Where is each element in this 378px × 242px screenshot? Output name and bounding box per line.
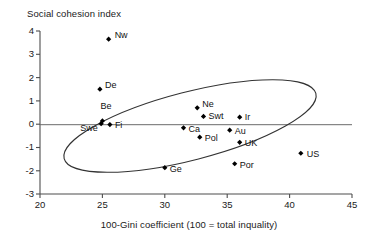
- data-point-marker: [97, 87, 102, 92]
- data-point-label: De: [105, 80, 117, 90]
- data-point-label: Au: [235, 126, 246, 136]
- data-point-label: Ca: [189, 124, 201, 134]
- x-tick-label: 30: [153, 199, 177, 210]
- y-tick-label: 4: [20, 25, 34, 36]
- scatter-plot-canvas: [0, 0, 378, 242]
- data-point-label: Ge: [170, 164, 182, 174]
- data-point-label: Swe: [80, 123, 98, 133]
- chart-figure: Social cohesion index 100-Gini coefficie…: [0, 0, 378, 242]
- data-point-marker: [232, 161, 237, 166]
- y-tick-label: 0: [20, 118, 34, 129]
- data-point-marker: [197, 135, 202, 140]
- x-tick-label: 40: [278, 199, 302, 210]
- y-tick-label: -1: [20, 141, 34, 152]
- data-point-label: Swt: [208, 111, 223, 121]
- x-tick-label: 45: [340, 199, 364, 210]
- data-point-marker: [237, 115, 242, 120]
- data-markers-layer: [97, 37, 303, 171]
- data-point-marker: [107, 122, 112, 127]
- data-point-label: US: [307, 149, 320, 159]
- data-point-marker: [106, 37, 111, 42]
- data-point-marker: [298, 151, 303, 156]
- data-point-label: Ne: [202, 99, 214, 109]
- data-point-marker: [181, 125, 186, 130]
- y-tick-label: 2: [20, 72, 34, 83]
- x-tick-label: 20: [28, 199, 52, 210]
- data-point-label: Pol: [205, 133, 218, 143]
- data-point-marker: [201, 114, 206, 119]
- data-point-label: Fi: [115, 120, 123, 130]
- y-tick-label: 3: [20, 48, 34, 59]
- y-tick-marks: [36, 31, 40, 194]
- data-point-label: Be: [100, 101, 111, 111]
- y-tick-label: -3: [20, 188, 34, 199]
- x-tick-label: 25: [90, 199, 114, 210]
- x-axis-title: 100-Gini coefficient (100 = total inqual…: [0, 219, 378, 230]
- data-point-label: Ir: [245, 112, 251, 122]
- data-point-label: Nw: [115, 30, 128, 40]
- data-point-label: UK: [245, 138, 258, 148]
- data-point-marker: [195, 105, 200, 110]
- data-point-label: Por: [240, 160, 254, 170]
- x-tick-marks: [40, 194, 352, 198]
- data-point-marker: [237, 140, 242, 145]
- data-point-marker: [227, 128, 232, 133]
- x-tick-label: 35: [215, 199, 239, 210]
- y-tick-label: -2: [20, 165, 34, 176]
- y-axis-title: Social cohesion index: [27, 8, 121, 19]
- y-tick-label: 1: [20, 95, 34, 106]
